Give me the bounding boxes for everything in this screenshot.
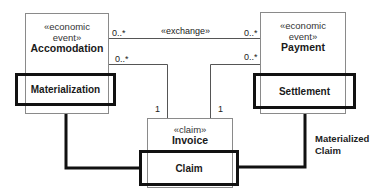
invoice-name: Invoice <box>148 135 232 146</box>
payment-invoice-from-multiplicity: 0..* <box>244 52 258 62</box>
materialized-claim-label: Materialized Claim <box>315 133 369 157</box>
accomodation-stereotype-line1: «economic <box>26 21 108 32</box>
payment-invoice-to-multiplicity: 1 <box>218 104 223 114</box>
materialization-claim-path <box>66 105 139 168</box>
claim-label: Claim <box>175 163 202 174</box>
payment-stereotype-line1: «economic <box>261 20 345 31</box>
claim-settlement-path <box>238 108 305 167</box>
accomodation-invoice-from-multiplicity: 0..* <box>115 54 129 64</box>
payment-name: Payment <box>261 42 345 53</box>
settlement-box[interactable]: Settlement <box>253 73 356 109</box>
materialized-claim-line2: Claim <box>315 145 369 157</box>
materialization-box[interactable]: Materialization <box>15 73 116 106</box>
accomodation-name: Accomodation <box>26 43 108 54</box>
exchange-association-label: «exchange» <box>161 26 210 36</box>
claim-box[interactable]: Claim <box>139 150 239 186</box>
exchange-from-multiplicity: 0..* <box>112 28 126 38</box>
accomodation-invoice-to-multiplicity: 1 <box>155 104 160 114</box>
settlement-label: Settlement <box>279 86 330 97</box>
materialized-claim-line1: Materialized <box>315 133 369 145</box>
materialization-label: Materialization <box>31 84 100 95</box>
exchange-to-multiplicity: 0..* <box>244 28 258 38</box>
